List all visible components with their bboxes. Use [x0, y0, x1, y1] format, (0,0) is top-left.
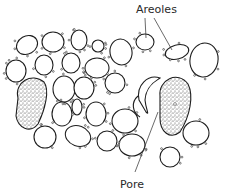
pore-dot — [83, 107, 85, 109]
pore-dot — [105, 121, 107, 123]
pore-dot — [217, 68, 219, 70]
pore-dot — [161, 148, 163, 150]
pore-dot — [56, 100, 58, 102]
pore-dot — [87, 126, 89, 128]
pore-dot — [191, 146, 193, 148]
pore-dot — [109, 123, 111, 125]
pore-dot — [49, 53, 51, 55]
pore-dot — [61, 68, 63, 70]
pore-dot — [134, 38, 136, 40]
pore-opening — [174, 103, 177, 106]
pore-dot — [79, 147, 81, 149]
areole-diagram: Areoles Pore — [0, 0, 226, 193]
pore-dot — [107, 112, 109, 114]
pore-dot — [107, 73, 109, 75]
areole-cell — [74, 77, 94, 99]
pore-dot — [107, 92, 109, 94]
pore-dot — [63, 73, 65, 75]
pore-dot — [125, 65, 127, 67]
pore-dot — [79, 51, 81, 53]
stippled-body-left — [16, 78, 47, 129]
pore-dot — [16, 83, 18, 85]
pore-dot — [114, 70, 116, 72]
pore-dot — [68, 39, 70, 41]
areole-cell — [97, 131, 117, 151]
areole-cell — [108, 37, 134, 66]
pore-dot — [204, 78, 206, 80]
pore-dot — [145, 149, 147, 151]
pore-dot — [178, 42, 180, 44]
areole-cell — [13, 32, 41, 59]
pore-dot — [62, 33, 64, 35]
pore-dot — [52, 122, 54, 124]
pore-dot — [83, 71, 85, 73]
pore-dot — [135, 130, 137, 132]
pore-dot — [94, 137, 96, 139]
pore-dot — [109, 93, 111, 95]
areole-cell — [42, 32, 64, 52]
areole-cell — [72, 99, 82, 115]
areole-cell — [187, 41, 220, 79]
pore-dot — [27, 55, 29, 57]
partial-cell-outline — [139, 77, 160, 113]
pore-dot — [60, 99, 62, 101]
pore-dot — [105, 48, 107, 50]
pore-dot — [84, 49, 86, 51]
pore-dot — [45, 76, 47, 78]
pore-dot — [118, 142, 120, 144]
areole-cell — [6, 60, 26, 82]
pore-dot — [108, 56, 110, 58]
pore-dot — [103, 78, 105, 80]
areole-cell — [71, 30, 87, 50]
areole-cell — [136, 34, 154, 50]
pore-dot — [84, 146, 86, 148]
pore-dot — [101, 52, 103, 54]
areole-cell — [52, 102, 72, 126]
pore-dot — [64, 47, 66, 49]
areole-cell — [86, 102, 106, 126]
pore-dot — [89, 46, 91, 48]
pore-dot — [36, 51, 38, 53]
pore-dot — [139, 32, 141, 34]
areoles-leader-2 — [154, 18, 172, 50]
areole-cell — [160, 147, 180, 167]
pore-dot — [3, 73, 5, 75]
pore-dot — [112, 130, 114, 132]
pore-dot — [105, 44, 107, 46]
pore-dot — [128, 107, 130, 109]
pore-dot — [126, 84, 128, 86]
pore-dot — [51, 147, 53, 149]
areoles-label: Areoles — [136, 3, 177, 16]
pore-dot — [169, 59, 171, 61]
pore-dot — [14, 48, 16, 50]
pore-dot — [41, 35, 43, 37]
pore-label: Pore — [120, 178, 144, 191]
pore-dot — [194, 75, 196, 77]
areole-cell — [164, 42, 191, 62]
pore-dot — [94, 81, 96, 83]
pore-dot — [84, 125, 86, 127]
pore-dot — [41, 48, 43, 50]
pore-dot — [14, 40, 16, 42]
pore-dot — [64, 103, 66, 105]
pore-dot — [5, 78, 7, 80]
areole-cell — [34, 126, 56, 148]
pore-dot — [163, 49, 165, 51]
pore-dot — [84, 74, 86, 76]
pore-dot — [103, 103, 105, 105]
pore-dot — [142, 51, 144, 53]
pore-dot — [87, 45, 89, 47]
pore-dot — [184, 59, 186, 61]
pore-dot — [66, 51, 68, 53]
pore-dot — [52, 71, 54, 73]
pore-dot — [217, 51, 219, 53]
areole-cell — [105, 73, 125, 93]
pore-dot — [72, 99, 74, 101]
pore-dot — [91, 77, 93, 79]
pore-dot — [92, 138, 94, 140]
pore-dot — [33, 68, 35, 70]
areole-cell — [35, 55, 53, 75]
areole-cell — [119, 134, 145, 156]
pore-dot — [178, 60, 180, 62]
pore-dot — [62, 103, 64, 105]
